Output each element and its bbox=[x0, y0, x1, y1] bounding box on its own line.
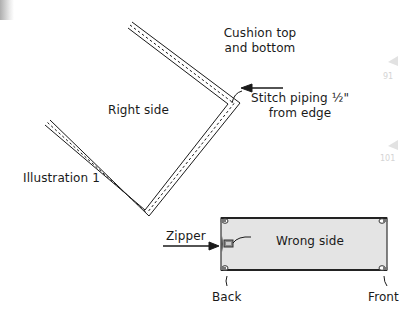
stitch-label-line-1: Stitch piping ½" bbox=[245, 91, 355, 106]
margin-mark: 101 bbox=[380, 154, 395, 163]
front-label: Front bbox=[368, 290, 399, 305]
back-leader-line bbox=[226, 276, 227, 286]
back-label: Back bbox=[212, 290, 242, 305]
piping-corner-left bbox=[45, 120, 149, 216]
zipper-label: Zipper bbox=[166, 229, 206, 244]
margin-mark: 91 bbox=[383, 72, 393, 81]
front-leader-line bbox=[384, 276, 387, 286]
stitch-label-line-2: from edge bbox=[245, 106, 355, 121]
stitch-label: Stitch piping ½" from edge bbox=[245, 91, 355, 121]
cushion-label-line-2: and bottom bbox=[210, 41, 310, 56]
margin-triangle bbox=[388, 56, 398, 66]
right-side-label: Right side bbox=[108, 103, 169, 118]
cushion-label: Cushion top and bottom bbox=[210, 26, 310, 56]
wrong-side-label: Wrong side bbox=[276, 234, 344, 249]
margin-triangle bbox=[388, 140, 398, 150]
illustration-title: Illustration 1 bbox=[23, 171, 100, 186]
cushion-label-line-1: Cushion top bbox=[210, 26, 310, 41]
